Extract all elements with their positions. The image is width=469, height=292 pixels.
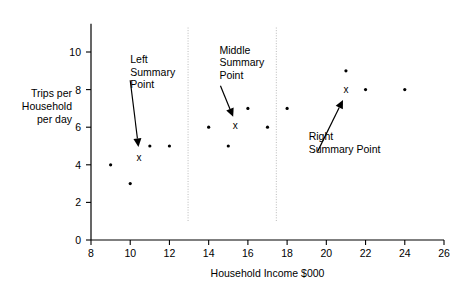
y-tick-label-8: 8 bbox=[75, 84, 81, 96]
annotation-arrow-line-middle bbox=[220, 86, 230, 109]
data-point bbox=[246, 107, 249, 110]
y-axis-title-line: per day bbox=[37, 113, 73, 125]
data-point bbox=[109, 163, 112, 166]
data-point bbox=[168, 144, 171, 147]
x-tick-marks bbox=[91, 240, 444, 245]
y-tick-label-6: 6 bbox=[75, 121, 81, 133]
scatter-plot-figure: 8101214161820222426 0246810 xxx LeftSumm… bbox=[0, 0, 469, 292]
annotation-label-line: Point bbox=[130, 78, 154, 90]
data-point bbox=[266, 126, 269, 129]
annotation-label-right: RightSummary Point bbox=[309, 130, 381, 155]
y-axis-title-text: Trips perHouseholdper day bbox=[22, 87, 73, 125]
data-point bbox=[344, 69, 347, 72]
y-tick-label-4: 4 bbox=[75, 159, 81, 171]
data-point bbox=[403, 88, 406, 91]
annotation-label-line: Summary Point bbox=[309, 143, 381, 155]
x-axis-title-text: Household Income $000 bbox=[211, 267, 325, 279]
x-tick-label-20: 20 bbox=[320, 247, 332, 259]
x-tick-label-14: 14 bbox=[203, 247, 215, 259]
x-tick-label-24: 24 bbox=[399, 247, 411, 259]
x-tick-labels: 8101214161820222426 bbox=[88, 247, 450, 259]
summary-point-marker-2: x bbox=[233, 120, 238, 131]
y-tick-label-0: 0 bbox=[75, 234, 81, 246]
x-tick-label-12: 12 bbox=[164, 247, 176, 259]
y-tick-label-10: 10 bbox=[69, 46, 81, 58]
summary-point-marker-3: x bbox=[343, 84, 348, 95]
data-point bbox=[286, 107, 289, 110]
y-tick-labels: 0246810 bbox=[69, 46, 81, 246]
annotation-label-left: LeftSummaryPoint bbox=[130, 53, 176, 90]
annotation-label-line: Point bbox=[219, 69, 243, 81]
annotation-label-line: Summary bbox=[130, 66, 176, 78]
x-tick-label-26: 26 bbox=[438, 247, 450, 259]
data-point bbox=[364, 88, 367, 91]
data-point bbox=[129, 182, 132, 185]
y-axis-title: Trips perHouseholdper day bbox=[22, 87, 73, 125]
annotation-arrow-head-left bbox=[133, 138, 141, 147]
y-tick-label-2: 2 bbox=[75, 196, 81, 208]
annotation-labels: LeftSummaryPointMiddleSummaryPointRightS… bbox=[130, 44, 380, 155]
annotation-label-line: Right bbox=[309, 130, 334, 142]
annotation-label-line: Middle bbox=[219, 44, 250, 56]
y-tick-marks bbox=[86, 52, 91, 240]
annotation-label-line: Summary bbox=[219, 56, 265, 68]
chart-canvas: 8101214161820222426 0246810 xxx LeftSumm… bbox=[0, 0, 469, 292]
x-tick-label-8: 8 bbox=[88, 247, 94, 259]
data-point bbox=[148, 144, 151, 147]
x-tick-label-18: 18 bbox=[281, 247, 293, 259]
data-point bbox=[207, 126, 210, 129]
x-tick-label-16: 16 bbox=[242, 247, 254, 259]
data-point bbox=[227, 144, 230, 147]
x-tick-label-10: 10 bbox=[124, 247, 136, 259]
annotation-label-middle: MiddleSummaryPoint bbox=[219, 44, 265, 81]
y-axis-title-line: Trips per bbox=[31, 87, 73, 99]
y-axis-title-line: Household bbox=[22, 100, 72, 112]
x-tick-label-22: 22 bbox=[360, 247, 372, 259]
annotation-label-line: Left bbox=[130, 53, 148, 65]
x-axis-title: Household Income $000 bbox=[211, 267, 325, 279]
summary-point-marker-1: x bbox=[137, 152, 142, 163]
